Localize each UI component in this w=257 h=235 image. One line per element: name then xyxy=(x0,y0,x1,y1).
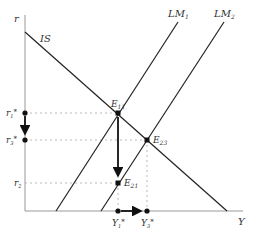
point-r1 xyxy=(22,110,27,115)
point-y3 xyxy=(144,208,149,213)
point-e23 xyxy=(145,138,150,143)
e11-label: E11 xyxy=(110,99,125,110)
r1-star-label: r1* xyxy=(6,108,18,119)
r2-label: r2 xyxy=(14,178,22,189)
point-r3 xyxy=(22,137,27,142)
e23-label: E23 xyxy=(152,135,167,146)
point-e21 xyxy=(116,181,121,186)
y3-star-label: Y3* xyxy=(141,218,154,229)
y-axis-label: r xyxy=(14,13,20,24)
point-y1 xyxy=(115,208,120,213)
lm2-label: LM2 xyxy=(213,8,235,20)
lm1-label: LM1 xyxy=(167,8,189,20)
e21-label: E21 xyxy=(123,178,138,189)
is-label: IS xyxy=(39,33,51,44)
x-axis-label: Y xyxy=(238,216,246,227)
point-e11 xyxy=(116,111,121,116)
guide-lines xyxy=(25,113,147,211)
is-lm-diagram: r Y IS LM1 LM2 E11 E23 E21 r1* r3* r2 Y1… xyxy=(0,0,257,235)
r3-star-label: r3* xyxy=(6,135,18,146)
y1-star-label: Y1* xyxy=(112,218,125,229)
